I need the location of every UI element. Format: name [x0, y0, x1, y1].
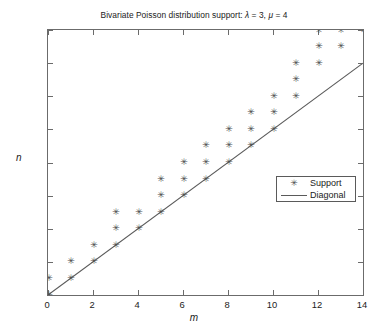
y-tick-mark — [48, 229, 53, 230]
x-tick-mark — [183, 290, 184, 295]
support-point — [315, 30, 322, 34]
x-tick-mark-top — [48, 30, 49, 35]
y-tick-mark-right — [358, 229, 363, 230]
x-tick-mark — [93, 290, 94, 295]
y-tick-mark — [48, 163, 53, 164]
x-tick-label: 4 — [117, 299, 157, 310]
figure-canvas: Bivariate Poisson distribution support: … — [0, 0, 388, 336]
support-point — [315, 60, 322, 67]
x-tick-label: 2 — [72, 299, 112, 310]
y-tick-mark-right — [358, 129, 363, 130]
support-point — [270, 93, 277, 100]
support-point — [135, 209, 142, 216]
x-tick-label: 0 — [27, 299, 67, 310]
y-tick-mark — [48, 196, 53, 197]
support-point — [112, 209, 119, 216]
plot-inner — [48, 30, 363, 295]
chart-title: Bivariate Poisson distribution support: … — [0, 10, 388, 20]
support-point — [315, 43, 322, 50]
support-point — [292, 60, 299, 67]
x-tick-mark-top — [183, 30, 184, 35]
plot-area — [47, 29, 364, 296]
diagonal-line-icon — [281, 195, 307, 196]
legend-item-diagonal: Diagonal — [277, 189, 355, 201]
support-point — [270, 109, 277, 116]
support-point — [225, 159, 232, 166]
mu-value: = 4 — [273, 10, 287, 20]
y-tick-mark — [48, 96, 53, 97]
y-tick-mark-right — [358, 96, 363, 97]
x-tick-mark-top — [273, 30, 274, 35]
support-point — [180, 176, 187, 183]
support-point — [67, 258, 74, 265]
x-tick-mark — [318, 290, 319, 295]
support-point — [247, 109, 254, 116]
support-point — [270, 126, 277, 133]
support-point — [292, 76, 299, 83]
x-tick-mark-top — [138, 30, 139, 35]
y-tick-mark-right — [358, 163, 363, 164]
x-tick-mark — [138, 290, 139, 295]
support-point — [157, 192, 164, 199]
x-tick-mark — [273, 290, 274, 295]
support-point — [112, 225, 119, 232]
y-tick-mark — [48, 63, 53, 64]
x-tick-label: 6 — [162, 299, 202, 310]
support-point — [67, 275, 74, 282]
chart-title-prefix: Bivariate Poisson distribution support: — [101, 10, 245, 20]
support-point — [112, 242, 119, 249]
y-tick-mark — [48, 262, 53, 263]
x-tick-label: 12 — [297, 299, 337, 310]
y-tick-mark-right — [358, 196, 363, 197]
support-point — [225, 126, 232, 133]
support-point — [247, 142, 254, 149]
support-point — [337, 43, 344, 50]
support-point — [202, 176, 209, 183]
support-point — [90, 242, 97, 249]
x-tick-mark-top — [228, 30, 229, 35]
support-point — [202, 142, 209, 149]
support-point — [360, 30, 364, 34]
legend-label-support: Support — [310, 177, 342, 189]
support-marker-icon: ✳ — [281, 177, 307, 189]
x-tick-mark — [228, 290, 229, 295]
x-tick-label: 8 — [207, 299, 247, 310]
support-point — [292, 93, 299, 100]
x-tick-label: 14 — [342, 299, 382, 310]
legend-item-support: ✳ Support — [277, 177, 355, 189]
legend-label-diagonal: Diagonal — [310, 189, 346, 201]
chart-legend: ✳ Support Diagonal — [276, 176, 356, 202]
y-tick-mark-right — [358, 63, 363, 64]
x-axis-label: m — [0, 312, 388, 323]
support-point — [180, 159, 187, 166]
support-point — [337, 30, 344, 34]
support-point — [48, 275, 52, 282]
support-point — [180, 192, 187, 199]
support-point — [90, 258, 97, 265]
support-point — [157, 176, 164, 183]
support-point — [225, 142, 232, 149]
lambda-value: = 3, — [249, 10, 268, 20]
y-tick-mark — [48, 129, 53, 130]
x-tick-label: 10 — [252, 299, 292, 310]
x-tick-mark-top — [93, 30, 94, 35]
y-tick-mark-right — [358, 262, 363, 263]
support-point — [48, 292, 52, 296]
support-point — [135, 225, 142, 232]
support-point — [157, 209, 164, 216]
support-point — [202, 159, 209, 166]
y-axis-label: n — [16, 152, 22, 163]
support-point — [247, 126, 254, 133]
